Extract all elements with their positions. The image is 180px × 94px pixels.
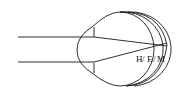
label-separator-1: / xyxy=(142,54,145,64)
label-separator-2: / xyxy=(153,54,156,64)
label-myopia: M xyxy=(157,54,165,64)
refracted-ray-top xyxy=(94,37,167,46)
diagram-svg: H / E / M xyxy=(0,0,180,94)
retina-arc-myopia xyxy=(128,12,171,86)
eye-refraction-diagram: H / E / M xyxy=(0,0,180,94)
focal-labels: H / E / M xyxy=(136,54,165,64)
cornea xyxy=(77,27,92,73)
